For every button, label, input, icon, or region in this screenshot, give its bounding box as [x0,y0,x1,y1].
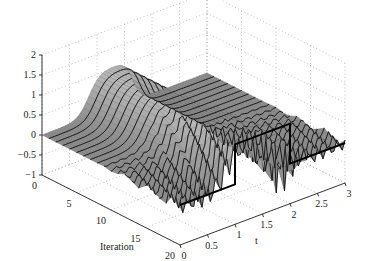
iteration-tick-label: 0 [32,180,37,191]
z-tick-label: 0 [31,129,36,140]
surface-mesh [42,65,345,212]
z-tick-label: 0.5 [24,109,37,120]
chart-container: 21.510.50−0.5−10510152000.511.522.53 t I… [0,0,373,261]
t-tick-label: 2 [292,209,297,220]
z-tick-label: 1.5 [24,69,37,80]
t-tick-label: 1.5 [260,219,273,230]
iteration-tick-label: 20 [165,250,175,261]
z-tick-label: −0.5 [18,149,36,160]
iteration-tick-label: 10 [96,215,106,226]
y-axis-label: Iteration [100,241,134,252]
t-tick-label: 1 [237,229,242,240]
z-tick-label: 1 [31,89,36,100]
t-tick-label: 0 [182,250,187,261]
iteration-tick-label: 5 [67,198,72,209]
x-axis-label: t [255,235,258,246]
z-tick-label: 2 [31,49,36,60]
t-tick-label: 3 [347,188,352,199]
surface-plot: 21.510.50−0.5−10510152000.511.522.53 t I… [0,0,373,261]
t-tick-label: 0.5 [205,240,218,251]
t-tick-label: 2.5 [315,198,328,209]
z-tick-label: −1 [25,169,36,180]
